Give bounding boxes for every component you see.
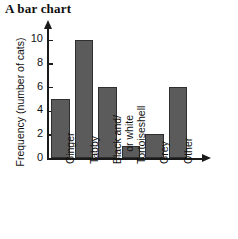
x-axis-tick-label: Other	[183, 138, 195, 164]
y-axis-tick-mark	[49, 63, 53, 64]
x-axis-tick-label-line: Tortoiseshell	[135, 106, 147, 164]
x-axis-tick-label: Grey	[159, 141, 171, 164]
x-axis-tick-label-line: Grey	[158, 141, 170, 164]
y-axis-tick-mark	[49, 87, 53, 88]
y-axis-tick-label: 8	[37, 56, 43, 68]
plot-area: 0246810 GingerTabbyBlack and/or whiteTor…	[47, 28, 212, 158]
y-axis-tick-label: 4	[37, 103, 43, 115]
x-axis-tick-label-line: Other	[182, 138, 194, 164]
bar-chart-figure: A bar chart Frequency (number of cats) 0…	[0, 0, 238, 239]
x-axis-tick-label: Tabby	[89, 136, 101, 164]
y-axis-line	[47, 28, 49, 158]
page-title: A bar chart	[5, 1, 71, 17]
y-axis-tick-label: 0	[37, 151, 43, 163]
x-axis-tick-label-line: Ginger	[64, 132, 76, 164]
x-axis-tick-label: Tortoiseshell	[136, 106, 148, 164]
y-axis-tick-mark	[49, 40, 53, 41]
y-axis-tick-label: 10	[31, 32, 43, 44]
x-axis-tick-label-line: Tabby	[88, 136, 100, 164]
x-axis-tick-label: Black and/or white	[112, 115, 135, 164]
x-axis-tick-label-line: or white	[124, 115, 136, 164]
y-axis-arrow-icon	[44, 20, 52, 29]
x-axis-tick-label: Ginger	[65, 132, 77, 164]
y-axis-tick-label: 2	[37, 127, 43, 139]
x-axis-arrow-icon	[202, 154, 211, 162]
y-axis-tick-label: 6	[37, 80, 43, 92]
x-axis-tick-label-line: Black and/	[111, 115, 123, 164]
y-axis-tick-mark	[49, 158, 53, 159]
y-axis-label: Frequency (number of cats)	[14, 26, 26, 178]
